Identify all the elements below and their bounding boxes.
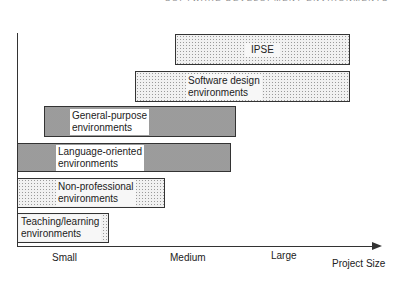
bar-teaching-learning: Teaching/learning environments (17, 213, 109, 243)
bar-label: General-purpose environments (70, 109, 149, 135)
page-header: SOFTWARE DEVELOPMENT ENVIRONMENTS (165, 0, 393, 4)
bar-label-line: Non-professional (58, 181, 134, 193)
x-tick-large: Large (271, 250, 297, 261)
x-axis-arrow-icon (372, 242, 382, 250)
bar-label-line: Language-oriented (58, 146, 142, 158)
bar-label: Non-professional environments (56, 180, 136, 206)
bar-non-professional: Non-professional environments (17, 178, 165, 208)
bar-label-line: General-purpose (72, 110, 147, 122)
bar-label: Language-oriented environments (56, 145, 144, 171)
x-tick-medium: Medium (170, 252, 206, 263)
x-axis-title: Project Size (332, 258, 385, 269)
bar-label: IPSE (245, 43, 280, 57)
bar-label-line: environments (21, 228, 99, 240)
bar-label: Teaching/learning environments (19, 215, 101, 241)
bar-ipse: IPSE (175, 34, 350, 65)
bar-label-line: environments (72, 122, 147, 134)
bar-label-line: Software design (188, 75, 260, 87)
bar-label-line: environments (58, 158, 142, 170)
x-tick-small: Small (52, 252, 77, 263)
bar-label-line: IPSE (251, 44, 274, 56)
x-axis (17, 246, 375, 247)
bar-software-design: Software design environments (135, 71, 350, 102)
bar-general-purpose: General-purpose environments (44, 106, 236, 137)
bar-label: Software design environments (186, 74, 262, 100)
bar-language-oriented: Language-oriented environments (17, 143, 231, 172)
bar-label-line: Teaching/learning (21, 216, 99, 228)
bar-label-line: environments (188, 87, 260, 99)
bar-label-line: environments (58, 193, 134, 205)
